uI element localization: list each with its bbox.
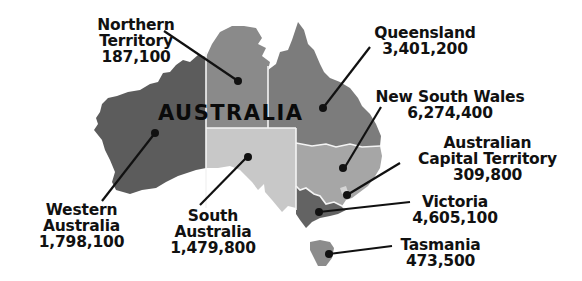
region-south-australia [206,128,296,212]
region-name: South [168,208,258,224]
region-name: Tasmania [393,237,488,253]
map-title: AUSTRALIA [158,101,303,125]
population-value: 4,605,100 [400,210,510,226]
population-value: 309,800 [400,167,575,183]
label-new-south-wales: New South Wales 6,274,400 [360,89,540,121]
region-name: New South Wales [360,89,540,105]
label-south-australia: South Australia 1,479,800 [168,208,258,256]
region-name: Capital Territory [400,151,575,167]
region-name: Australia [168,224,258,240]
label-queensland: Queensland 3,401,200 [360,25,490,57]
region-name: Territory [76,33,196,49]
population-value: 1,798,100 [34,234,129,250]
label-tasmania: Tasmania 473,500 [393,237,488,269]
region-name: Australia [34,218,129,234]
population-value: 6,274,400 [360,105,540,121]
region-name: Australian [400,135,575,151]
population-value: 473,500 [393,253,488,269]
region-name: Northern [76,17,196,33]
region-name: Victoria [400,194,510,210]
population-value: 1,479,800 [168,240,258,256]
label-western-australia: Western Australia 1,798,100 [34,202,129,250]
region-name: Western [34,202,129,218]
label-act: Australian Capital Territory 309,800 [400,135,575,183]
population-value: 187,100 [76,49,196,65]
region-name: Queensland [360,25,490,41]
label-northern-territory: Northern Territory 187,100 [76,17,196,65]
population-value: 3,401,200 [360,41,490,57]
label-victoria: Victoria 4,605,100 [400,194,510,226]
